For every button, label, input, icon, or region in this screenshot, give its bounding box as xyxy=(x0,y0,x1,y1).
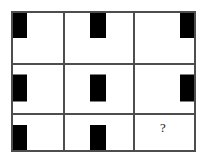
black-bar xyxy=(11,11,27,38)
matrix-puzzle: ? xyxy=(0,0,206,165)
matrix-cell-r2c2[interactable] xyxy=(63,63,133,113)
matrix-grid: ? xyxy=(11,11,196,152)
black-bar xyxy=(180,75,196,102)
black-bar xyxy=(90,125,106,152)
matrix-cell-r2c1[interactable] xyxy=(11,63,63,113)
matrix-cell-r3c1[interactable] xyxy=(11,113,63,152)
black-bar xyxy=(11,125,27,152)
matrix-cell-r3c3[interactable]: ? xyxy=(133,113,196,152)
black-bar xyxy=(11,75,27,102)
black-bar xyxy=(180,11,196,38)
matrix-cell-r3c2[interactable] xyxy=(63,113,133,152)
matrix-cells: ? xyxy=(11,11,196,152)
matrix-cell-r2c3[interactable] xyxy=(133,63,196,113)
matrix-cell-r1c3[interactable] xyxy=(133,11,196,63)
black-bar xyxy=(90,75,106,102)
question-mark-label: ? xyxy=(160,121,166,134)
matrix-cell-r1c1[interactable] xyxy=(11,11,63,63)
matrix-cell-r1c2[interactable] xyxy=(63,11,133,63)
black-bar xyxy=(90,11,106,38)
